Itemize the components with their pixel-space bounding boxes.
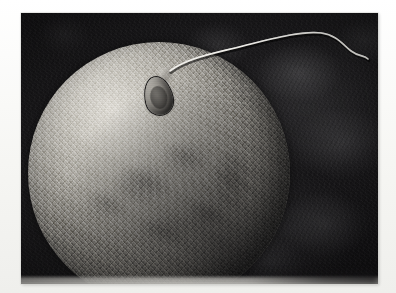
photo-bottom-shade	[248, 272, 378, 284]
micrograph-photo	[21, 13, 378, 284]
micrograph-figure	[0, 0, 396, 293]
egg-cell	[28, 42, 290, 284]
